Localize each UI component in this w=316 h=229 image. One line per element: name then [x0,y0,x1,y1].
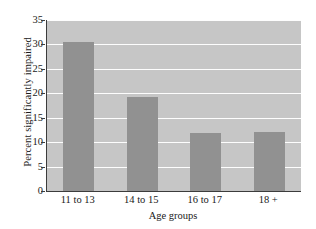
x-axis-title: Age groups [46,210,300,222]
y-axis-tick-mark [41,69,45,70]
y-axis-tick-mark [41,191,45,192]
y-axis-tick-label: 15 [2,113,43,123]
bar-chart-figure: Percent significantly impaired 051015202… [0,0,316,229]
y-axis-tick-mark [41,44,45,45]
bar [63,42,94,191]
x-axis-tick-label: 18 + [237,194,301,206]
y-axis-tick-label: 5 [2,162,43,172]
bar [127,97,158,191]
y-axis-tick-label: 35 [2,15,43,25]
bar [254,132,285,191]
y-axis-tick-label: 10 [2,137,43,147]
y-axis-tick-label: 25 [2,64,43,74]
x-axis-tick-label: 16 to 17 [173,194,237,206]
y-axis-tick-labels: 05101520253035 [0,20,43,191]
bar-series [47,20,301,191]
y-axis-tick-label: 0 [2,186,43,196]
y-axis-tick-mark [41,167,45,168]
x-axis-tick-label: 11 to 13 [46,194,110,206]
bar [190,133,221,191]
x-axis-tick-label: 14 to 15 [110,194,174,206]
y-axis-tick-mark [41,20,45,21]
y-axis-tick-mark [41,93,45,94]
y-axis-tick-mark [41,118,45,119]
y-axis-tick-mark [41,142,45,143]
y-axis-tick-label: 20 [2,88,43,98]
x-axis-tick-labels: 11 to 1314 to 1516 to 1718 + [46,194,300,208]
y-axis-tick-label: 30 [2,39,43,49]
plot-area [46,20,301,192]
